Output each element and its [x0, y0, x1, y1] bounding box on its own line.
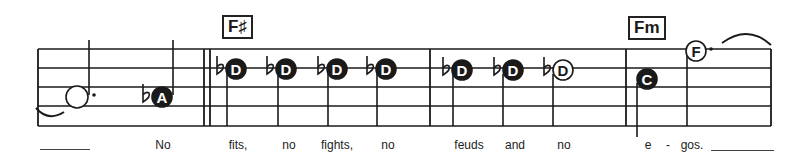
- note-letter: D: [231, 61, 242, 78]
- lyric-syllable: -: [666, 138, 670, 152]
- notes: ADDDDDDDCF: [66, 40, 713, 137]
- lyric-syllable: fights,: [321, 138, 353, 152]
- staff-lines: [38, 49, 771, 126]
- flat-sign-icon: [494, 57, 500, 75]
- lyric-syllable: e: [645, 138, 652, 152]
- note-letter: D: [332, 61, 343, 78]
- chord-symbol: F♯: [222, 15, 253, 39]
- flat-sign-icon: [367, 56, 373, 74]
- note: D: [367, 56, 396, 126]
- note-letter: A: [157, 89, 168, 106]
- augmentation-dot: [709, 47, 713, 51]
- lyric-syllable: no: [282, 138, 295, 152]
- ties: [36, 34, 771, 116]
- lyric-syllable: no: [557, 138, 570, 152]
- note-letter: F: [691, 43, 700, 60]
- lyric-extender-line: [40, 149, 90, 150]
- lyric-syllable: and: [505, 138, 525, 152]
- note-letter: C: [642, 71, 653, 88]
- flat-sign-icon: [544, 57, 550, 75]
- note: A: [143, 40, 173, 107]
- note: [66, 40, 96, 108]
- augmentation-dot: [92, 93, 96, 97]
- lyric-syllable: fits,: [229, 138, 248, 152]
- note-letter: D: [457, 62, 468, 79]
- flat-sign-icon: [318, 56, 324, 74]
- note-letter: D: [508, 62, 519, 79]
- note-letter: D: [381, 61, 392, 78]
- lyric-syllable: No: [155, 138, 170, 152]
- note: D: [318, 56, 347, 126]
- tie-incoming: [36, 108, 64, 116]
- note-letter: D: [281, 61, 292, 78]
- tie-outgoing: [722, 34, 771, 45]
- note: C: [637, 69, 657, 137]
- lyric-syllable: no: [381, 138, 394, 152]
- flat-sign-icon: [217, 56, 223, 74]
- lyric-syllable: feuds: [454, 138, 483, 152]
- note-letter: D: [558, 62, 569, 79]
- open-notehead: [66, 86, 88, 108]
- lyric-syllable: gos.: [681, 138, 704, 152]
- chord-symbol: Fm: [628, 16, 666, 40]
- note: F: [686, 41, 713, 126]
- note: D: [217, 56, 246, 126]
- note: D: [267, 56, 296, 126]
- flat-sign-icon: [267, 56, 273, 74]
- flat-sign-icon: [443, 57, 449, 75]
- lyric-extender-line: [711, 150, 774, 151]
